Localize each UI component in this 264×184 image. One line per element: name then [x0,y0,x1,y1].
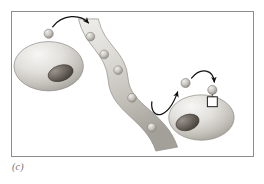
released-ligand [44,29,53,38]
bound-ligand [208,85,217,94]
figure-container: (c) [0,0,264,184]
figure-caption: (c) [12,162,24,172]
matrix-ribbon [78,19,177,151]
secreting-cell [14,42,83,91]
target-cell [169,95,234,140]
binding-arrow [192,71,215,82]
cell-signaling-diagram [12,12,253,156]
figure-frame [11,11,254,157]
diffusing-ligand [181,78,190,87]
